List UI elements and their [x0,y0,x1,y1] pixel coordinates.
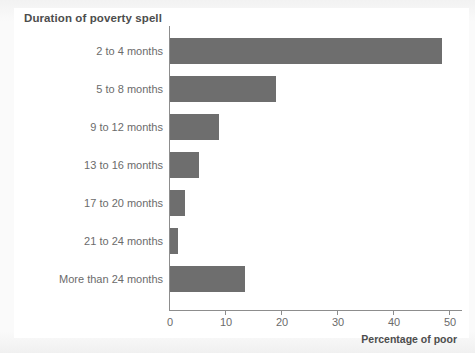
x-axis-title: Percentage of poor [361,333,457,345]
bar-row: 13 to 16 months [0,152,475,178]
bar [170,38,442,64]
bar [170,114,219,140]
chart-figure: Duration of poverty spell 2 to 4 months5… [0,0,475,353]
bar-chart-plot: 2 to 4 months5 to 8 months9 to 12 months… [0,0,475,353]
category-label: 5 to 8 months [96,76,163,102]
category-label: More than 24 months [59,266,163,292]
x-tick [337,310,338,315]
x-tick-label: 30 [318,316,358,328]
x-tick-label: 20 [262,316,302,328]
bar [170,152,199,178]
bar-row: 5 to 8 months [0,76,475,102]
x-tick-label: 0 [150,316,190,328]
x-tick-label: 50 [430,316,470,328]
category-label: 17 to 20 months [84,190,163,216]
category-label: 21 to 24 months [84,228,163,254]
bar-row: 2 to 4 months [0,38,475,64]
bar [170,190,185,216]
bar-row: 9 to 12 months [0,114,475,140]
x-axis-line [169,310,462,311]
category-label: 9 to 12 months [90,114,163,140]
bar [170,266,245,292]
bar-row: More than 24 months [0,266,475,292]
bar-row: 21 to 24 months [0,228,475,254]
bar-row: 17 to 20 months [0,190,475,216]
x-tick-label: 40 [374,316,414,328]
x-tick-label: 10 [206,316,246,328]
bar [170,76,276,102]
x-tick [225,310,226,315]
category-label: 2 to 4 months [96,38,163,64]
x-tick [449,310,450,315]
x-tick [393,310,394,315]
bar [170,228,178,254]
x-tick [281,310,282,315]
category-label: 13 to 16 months [84,152,163,178]
